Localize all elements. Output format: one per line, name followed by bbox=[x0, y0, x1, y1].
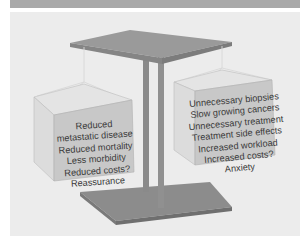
scale-beam bbox=[70, 30, 232, 64]
harms-list: Unnecessary biopsies Slow growing cancer… bbox=[179, 90, 296, 179]
scale-base bbox=[80, 182, 232, 225]
benefits-list: Reduced metastatic disease Reduced morta… bbox=[46, 117, 147, 192]
